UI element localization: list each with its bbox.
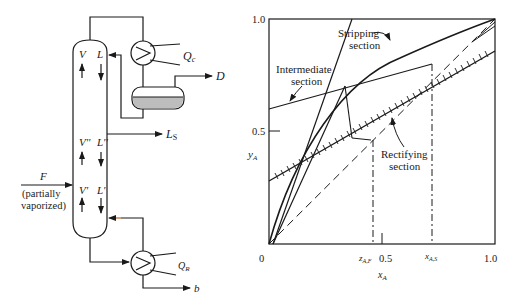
column-labels: V L V'' L'' V' L' Qc D LS F (partially v… (21, 48, 225, 294)
mccabe-thiele-chart (269, 19, 495, 244)
x-marker-side: xA,S (424, 251, 437, 262)
rectifying-label-2: section (389, 160, 421, 172)
label-mid-vapor: V'' (79, 136, 91, 148)
chart-labels: Stripping section Intermediate section R… (247, 14, 497, 282)
label-reboiler-duty: QR (178, 260, 190, 273)
condenser-icon (131, 41, 155, 65)
rectifying-pointer (392, 118, 404, 147)
overhead-vapor-line (90, 17, 143, 41)
x-axis-label: xA (377, 269, 387, 282)
label-distillate: D (215, 69, 225, 83)
x-tick-0-5: 0.5 (379, 253, 392, 264)
bottoms-product-line (143, 275, 190, 288)
intermediate-label-2: section (291, 75, 323, 87)
condenser-coil-icon (136, 47, 150, 60)
rectifying-label-1: Rectifying (381, 148, 428, 160)
x-marker-feed: zA,F (358, 253, 372, 264)
stripping-label-2: section (349, 39, 381, 51)
y-tick-1: 1.0 (252, 14, 265, 25)
reboiler-return-line (121, 218, 143, 251)
reboiler-icon (131, 251, 155, 275)
x-tick-0: 0 (259, 253, 264, 264)
diagonal-line (269, 19, 495, 244)
label-feed: F (39, 170, 47, 182)
y-tick-0-5: 0.5 (252, 126, 265, 137)
intermediate-label-1: Intermediate (276, 63, 332, 75)
reboiler-coil-icon (136, 257, 150, 270)
label-top-vapor: V (79, 48, 87, 60)
label-side-stream: LS (165, 127, 177, 142)
label-bottom-liquid: L' (96, 184, 106, 196)
distillate-line (175, 76, 212, 87)
stripping-operating-line (273, 19, 352, 244)
intermediate-pointer (290, 86, 302, 101)
label-feed-note-2: vaporized) (21, 200, 66, 212)
label-bottom-vapor: V' (79, 184, 89, 196)
label-feed-note-1: (partially (22, 188, 61, 200)
label-top-liquid: L (96, 48, 103, 60)
label-condenser-duty: Qc (183, 49, 196, 64)
bottoms-to-reboiler-line (90, 238, 129, 262)
figure-canvas: V L V'' L'' V' L' Qc D LS F (partially v… (0, 0, 519, 304)
y-axis-label: yA (247, 148, 258, 162)
x-tick-1: 1.0 (484, 253, 497, 264)
stripping-label-1: Stripping (338, 27, 379, 39)
label-bottoms: b (194, 282, 200, 294)
label-mid-liquid: L'' (96, 136, 108, 148)
